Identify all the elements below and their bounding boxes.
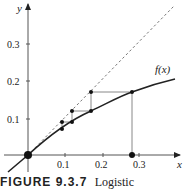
y-tick-label: 0.2 xyxy=(7,76,20,87)
origin-marker xyxy=(24,151,32,159)
x-axis-label: x xyxy=(176,158,182,170)
markers xyxy=(24,90,135,159)
fx-label: f(x) xyxy=(155,63,171,76)
figure-caption-text: Logistic xyxy=(95,175,134,189)
y-tick-label: 0.1 xyxy=(7,114,20,125)
figure-number: FIGURE 9.3.7 xyxy=(0,175,87,189)
figure-caption: FIGURE 9.3.7 Logistic xyxy=(0,175,134,190)
x-tick-label: 0.3 xyxy=(133,159,146,170)
y-axis-label: y xyxy=(16,2,22,14)
diagonal-line xyxy=(28,6,174,155)
start-marker xyxy=(129,152,135,158)
x-tick-label: 0.2 xyxy=(95,159,108,170)
y-tick-label: 0.3 xyxy=(7,39,20,50)
x-tick-label: 0.1 xyxy=(57,159,70,170)
cobweb-chart: 0.1 0.2 0.3 x 0.3 0.2 0.1 y f(x) xyxy=(0,0,189,190)
